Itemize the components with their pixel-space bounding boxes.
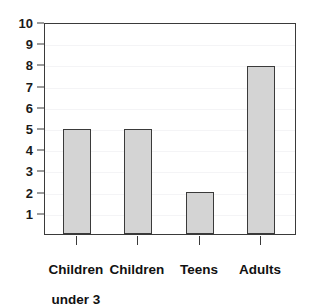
y-tick-mark-6 <box>37 107 44 108</box>
bar-teens <box>186 192 214 234</box>
x-tick-mark-1 <box>137 236 138 245</box>
y-tick-mark-4 <box>37 150 44 151</box>
y-tick-label-1: 1 <box>0 207 33 220</box>
y-tick-mark-9 <box>37 44 44 45</box>
y-tick-mark-7 <box>37 86 44 87</box>
y-tick-label-9: 9 <box>0 38 33 51</box>
x-label-teens-line1: Teens <box>180 262 218 277</box>
x-label-adults: Adults <box>224 247 296 277</box>
y-tick-mark-5 <box>37 129 44 130</box>
y-tick-mark-10 <box>37 23 44 24</box>
y-tick-label-3: 3 <box>0 165 33 178</box>
y-tick-label-6: 6 <box>0 101 33 114</box>
y-tick-mark-3 <box>37 171 44 172</box>
x-tick-mark-2 <box>199 236 200 245</box>
x-tick-mark-0 <box>76 236 77 245</box>
plot-area <box>44 23 296 235</box>
y-tick-label-7: 7 <box>0 80 33 93</box>
y-tick-mark-1 <box>37 213 44 214</box>
y-tick-label-4: 4 <box>0 144 33 157</box>
x-tick-mark-3 <box>260 236 261 245</box>
y-tick-label-2: 2 <box>0 186 33 199</box>
x-label-adults-line1: Adults <box>239 262 281 277</box>
bar-children <box>124 129 152 234</box>
x-label-children-under-3-line2: under 3 <box>52 292 101 307</box>
y-tick-label-5: 5 <box>0 123 33 136</box>
y-axis-labels: 10 9 8 7 6 5 4 3 2 1 <box>0 0 33 293</box>
bar-children-under-3 <box>63 129 91 234</box>
bar-adults <box>247 66 275 234</box>
y-tick-mark-2 <box>37 192 44 193</box>
gridline-9 <box>45 45 295 46</box>
x-label-children-line1: Children <box>110 262 165 277</box>
y-tick-label-8: 8 <box>0 59 33 72</box>
y-tick-label-10: 10 <box>0 17 33 30</box>
y-tick-mark-8 <box>37 65 44 66</box>
